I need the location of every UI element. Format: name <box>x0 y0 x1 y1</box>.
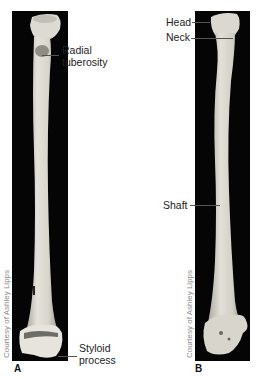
label-radial-tuberosity: Radial tuberosity <box>62 44 108 68</box>
label-shaft: Shaft <box>163 199 188 211</box>
radius-bone-image-b <box>195 11 250 361</box>
leader-line-styloid-process <box>58 356 77 357</box>
leader-line-radial-tuberosity <box>42 55 59 56</box>
panel-letter-a: A <box>14 363 21 374</box>
panel-letter-b: B <box>195 363 202 374</box>
panel-a-radius-photo <box>12 11 68 361</box>
label-styloid-process: Styloid process <box>79 342 116 366</box>
panel-b-radius-photo <box>195 11 250 361</box>
leader-line-neck <box>191 38 233 39</box>
radius-bone-image-a <box>12 11 68 361</box>
photo-credit-a: Courtesy of Ashley Lipps <box>2 270 11 358</box>
photo-credit-b: Courtesy of Ashley Lipps <box>185 270 194 358</box>
leader-line-head <box>192 22 210 23</box>
label-head: Head <box>166 16 191 28</box>
leader-line-shaft <box>190 205 220 206</box>
label-neck: Neck <box>166 31 190 43</box>
